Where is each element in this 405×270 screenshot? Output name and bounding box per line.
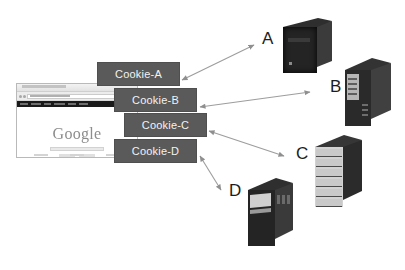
bookmark-item[interactable] (20, 103, 28, 105)
server-a-side (317, 21, 332, 67)
cookie-box-c[interactable]: Cookie-C (125, 114, 206, 136)
server-d-panel (250, 193, 271, 208)
forward-icon[interactable] (23, 95, 26, 98)
server-c-bay (316, 169, 342, 177)
cookie-box-b[interactable]: Cookie-B (115, 89, 196, 111)
bookmark-item[interactable] (68, 103, 76, 105)
server-b-vent (362, 104, 368, 106)
bookmark-item[interactable] (31, 103, 41, 105)
server-d-vent (282, 195, 285, 204)
google-logo: Google (53, 125, 102, 143)
server-b-slot (348, 83, 357, 85)
server-d-vent (287, 195, 290, 204)
server-d-vent (277, 195, 280, 204)
bookmark-item[interactable] (54, 103, 65, 105)
server-c-bay (316, 159, 342, 167)
server-c-bay (316, 149, 342, 157)
arrow-cookie-d-to-server-d (200, 156, 221, 190)
server-a-front (283, 27, 317, 73)
arrow-cookie-b-to-server-b (200, 92, 310, 107)
footer-link[interactable] (34, 154, 48, 156)
server-c-side (343, 140, 362, 200)
cookie-box-a[interactable]: Cookie-A (98, 63, 179, 85)
diagram-canvas: Google Cookie-A (0, 0, 405, 270)
server-a-drive-bay (288, 38, 310, 42)
server-label-d: D (229, 182, 241, 199)
bookmark-item[interactable] (79, 103, 88, 105)
search-input[interactable] (50, 147, 104, 151)
server-c-bay (316, 189, 342, 197)
server-icon-c (315, 135, 363, 213)
arrow-cookie-c-to-server-c (209, 131, 284, 156)
arrow-cookie-a-to-server-a (182, 45, 254, 80)
server-icon-b (345, 58, 393, 130)
server-b-vent (362, 109, 368, 111)
server-c-bay (316, 199, 342, 207)
server-icon-d (248, 178, 294, 250)
bookmark-item[interactable] (44, 103, 51, 105)
server-d-side (275, 183, 293, 239)
server-a-power-led (289, 62, 292, 65)
server-b-slot (348, 93, 357, 95)
back-icon[interactable] (19, 95, 22, 98)
server-c-bay (316, 179, 342, 187)
server-label-c: C (296, 145, 308, 162)
browser-title-text (22, 85, 66, 88)
footer-link[interactable] (70, 154, 84, 156)
cookie-box-d[interactable]: Cookie-D (115, 140, 196, 162)
url-text (30, 95, 70, 97)
server-b-side (371, 63, 391, 119)
server-icon-a (283, 18, 333, 74)
server-label-b: B (330, 78, 341, 95)
server-b-slot (348, 78, 357, 80)
server-label-a: A (262, 30, 273, 47)
server-b-vent (362, 114, 368, 116)
server-b-slot (348, 88, 357, 90)
